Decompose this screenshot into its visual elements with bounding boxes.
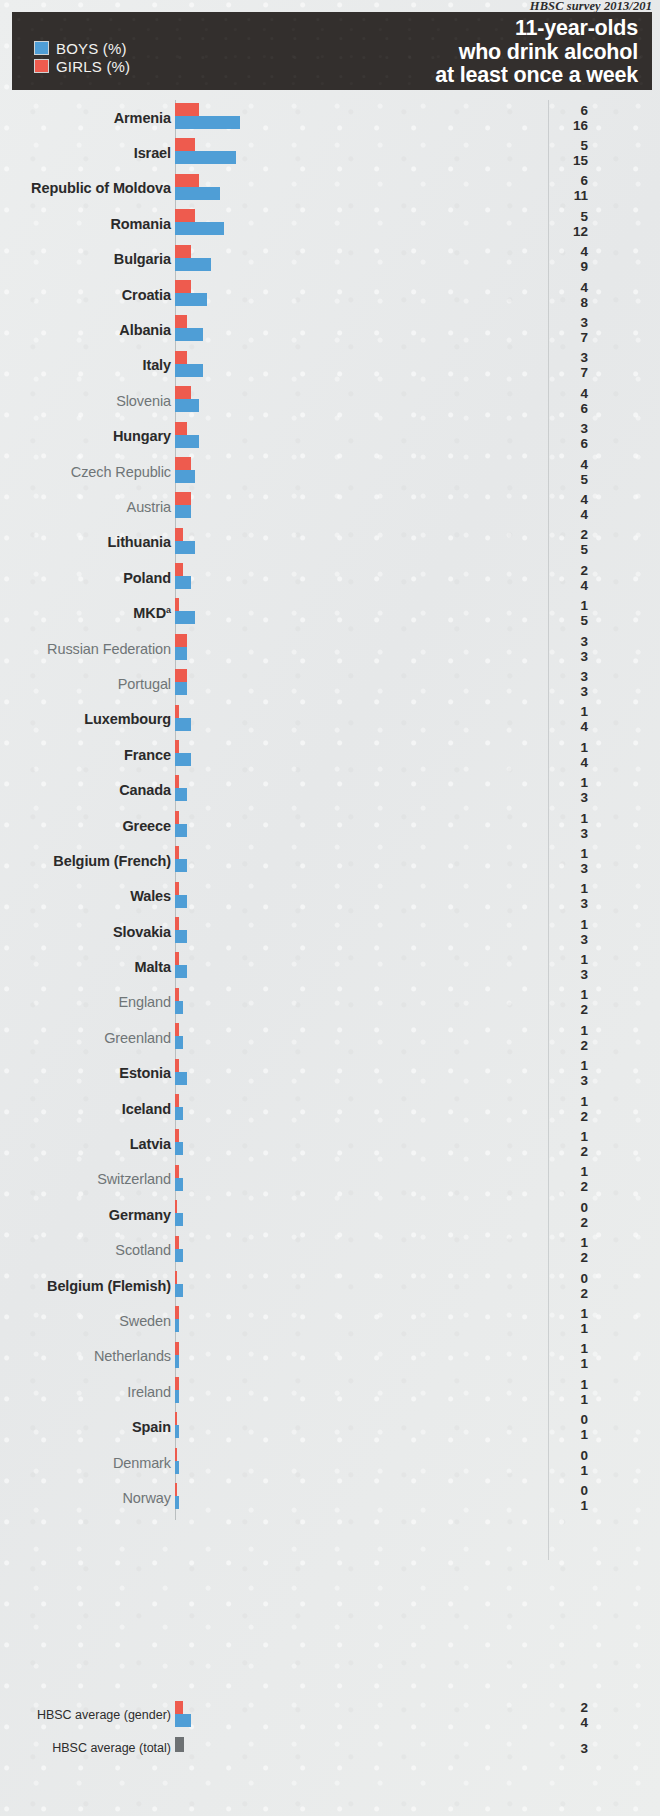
table-row: Estonia13 — [0, 1056, 660, 1091]
bar-boys — [175, 788, 187, 801]
bar-boys — [175, 1496, 179, 1509]
bar-group — [175, 949, 475, 984]
row-values: 14 — [580, 740, 588, 770]
table-row: Albania37 — [0, 312, 660, 347]
bar-boys — [175, 1213, 183, 1226]
bar-girls — [175, 1200, 177, 1213]
bar-girls — [175, 174, 199, 187]
value-girls: 2 — [580, 563, 588, 578]
bar-group — [175, 631, 475, 666]
row-values: 33 — [580, 669, 588, 699]
title-line-2: who drink alcohol — [435, 41, 638, 65]
country-label: Netherlands — [0, 1348, 171, 1364]
value-boys: 3 — [580, 790, 588, 805]
table-row: Poland24 — [0, 560, 660, 595]
country-label: Slovakia — [0, 924, 171, 940]
table-row: Sweden11 — [0, 1303, 660, 1338]
row-values: 13 — [580, 846, 588, 876]
row-values: 11 — [580, 1377, 588, 1407]
row-values: 01 — [580, 1412, 588, 1442]
bar-group — [175, 206, 475, 241]
value-girls: 1 — [580, 1129, 588, 1144]
country-label: Canada — [0, 782, 171, 798]
value-boys: 4 — [580, 719, 588, 734]
value-boys: 5 — [580, 542, 588, 557]
value-girls: 0 — [580, 1412, 588, 1427]
value-boys: 2 — [580, 1215, 588, 1230]
table-row: Malta13 — [0, 949, 660, 984]
bar-girls — [175, 245, 191, 258]
value-girls: 1 — [580, 811, 588, 826]
table-row: Lithuania25 — [0, 525, 660, 560]
bar-boys — [175, 647, 187, 660]
bar-boys — [175, 1107, 183, 1120]
table-row: Scotland12 — [0, 1233, 660, 1268]
country-label: Wales — [0, 888, 171, 904]
row-values: 48 — [580, 280, 588, 310]
bar-group — [175, 312, 475, 347]
bar-boys — [175, 187, 220, 200]
value-girls: 0 — [580, 1483, 588, 1498]
value-girls: 0 — [580, 1271, 588, 1286]
bar-boys — [175, 328, 203, 341]
country-label: Lithuania — [0, 534, 171, 550]
average-label: HBSC average (total) — [0, 1741, 171, 1755]
value-girls: 4 — [580, 280, 588, 295]
value-girls: 4 — [580, 492, 588, 507]
average-value-total: 3 — [580, 1740, 588, 1755]
bar-girls — [175, 280, 191, 293]
country-label: Germany — [0, 1207, 171, 1223]
bar-group — [175, 1020, 475, 1055]
value-girls: 1 — [580, 704, 588, 719]
bar-group — [175, 560, 475, 595]
value-boys: 8 — [580, 295, 588, 310]
country-label: Republic of Moldova — [0, 180, 171, 196]
bar-boys — [175, 895, 187, 908]
table-row: Russian Federation33 — [0, 631, 660, 666]
bar-girls — [175, 315, 187, 328]
row-values: 12 — [580, 987, 588, 1017]
value-boys: 1 — [580, 1356, 588, 1371]
bar-boys — [175, 435, 199, 448]
value-boys: 4 — [580, 507, 588, 522]
value-girls: 1 — [580, 1023, 588, 1038]
bar-girls — [175, 1059, 179, 1072]
bar-boys — [175, 1249, 183, 1262]
value-boys: 1 — [580, 1321, 588, 1336]
bar-girls — [175, 1094, 179, 1107]
bar-group — [175, 595, 475, 630]
bar-group — [175, 454, 475, 489]
value-girls: 1 — [580, 1377, 588, 1392]
bar-girls — [175, 988, 179, 1001]
bar-boys — [175, 151, 236, 164]
bar-boys — [175, 1284, 183, 1297]
row-values: 02 — [580, 1271, 588, 1301]
value-boys: 16 — [573, 118, 588, 133]
country-label: Poland — [0, 570, 171, 586]
value-girls: 3 — [580, 634, 588, 649]
bar-girls — [175, 457, 191, 470]
bar-girls — [175, 422, 187, 435]
country-label: Armenia — [0, 110, 171, 126]
bar-girls — [175, 882, 179, 895]
country-label: Bulgaria — [0, 251, 171, 267]
bar-girls — [175, 1236, 179, 1249]
average-values: 3 — [580, 1740, 588, 1755]
row-values: 611 — [574, 173, 588, 203]
country-label: Croatia — [0, 287, 171, 303]
bar-group — [175, 702, 475, 737]
row-values: 49 — [580, 244, 588, 274]
bar-girls — [175, 1129, 179, 1142]
country-label: Italy — [0, 357, 171, 373]
bar-girls — [175, 1306, 179, 1319]
bar-boys — [175, 293, 207, 306]
value-boys: 5 — [580, 613, 588, 628]
row-values: 13 — [580, 1058, 588, 1088]
value-boys: 1 — [580, 1427, 588, 1442]
average-row: HBSC average (total)3 — [0, 1731, 660, 1764]
row-values: 46 — [580, 386, 588, 416]
value-boys: 11 — [574, 188, 588, 203]
table-row: Canada13 — [0, 772, 660, 807]
value-girls: 1 — [580, 1235, 588, 1250]
row-values: 11 — [580, 1306, 588, 1336]
